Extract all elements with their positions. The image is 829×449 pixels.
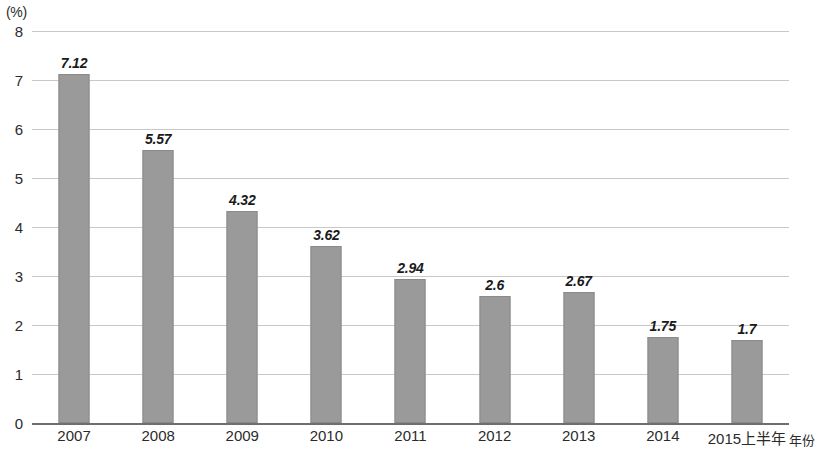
bar-slot: 2.67 — [537, 31, 621, 423]
y-axis-tick-label: 2 — [15, 317, 23, 334]
x-axis-tick-label: 2015上半年 — [708, 427, 786, 448]
y-axis-tick-label: 6 — [15, 121, 23, 138]
bar[interactable] — [59, 74, 90, 423]
bar-slot: 3.62 — [284, 31, 368, 423]
y-axis-tick-label: 1 — [15, 366, 23, 383]
x-axis-tick-label: 2008 — [141, 427, 174, 444]
bar[interactable] — [395, 279, 426, 423]
bars-group: 7.125.574.323.622.942.62.671.751.7 — [32, 31, 789, 423]
bar-chart: (%) 876543210 7.125.574.323.622.942.62.6… — [0, 0, 829, 449]
bar-slot: 5.57 — [116, 31, 200, 423]
bar[interactable] — [227, 211, 258, 423]
x-axis-tick-label: 2014 — [646, 427, 679, 444]
bar[interactable] — [143, 150, 174, 423]
y-axis-tick-label: 8 — [15, 23, 23, 40]
bar[interactable] — [479, 296, 510, 423]
bar[interactable] — [311, 246, 342, 423]
bar-slot: 4.32 — [200, 31, 284, 423]
bar[interactable] — [647, 337, 678, 423]
bar-slot: 2.6 — [453, 31, 537, 423]
bar-value-label: 1.75 — [650, 318, 676, 334]
bar-value-label: 2.6 — [485, 277, 504, 293]
x-axis-tick-label: 2013 — [562, 427, 595, 444]
x-axis-tick-label: 2009 — [226, 427, 259, 444]
y-axis-unit-label: (%) — [6, 4, 27, 20]
x-axis-baseline: 0 — [32, 423, 789, 425]
y-axis-tick-label: 3 — [15, 268, 23, 285]
bar-slot: 1.75 — [621, 31, 705, 423]
x-axis-tick-label: 2007 — [57, 427, 90, 444]
bar-value-label: 5.57 — [145, 131, 171, 147]
x-axis-tick-labels: 200720082009201020112012201320142015上半年 — [32, 427, 789, 449]
plot-area: 876543210 7.125.574.323.622.942.62.671.7… — [32, 31, 789, 423]
x-axis-tick-label: 2011 — [394, 427, 426, 444]
y-axis-tick-label: 5 — [15, 170, 23, 187]
bar[interactable] — [563, 292, 594, 423]
bar-slot: 7.12 — [32, 31, 116, 423]
bar-value-label: 2.67 — [565, 273, 591, 289]
x-axis-title: 年份 — [789, 430, 815, 449]
bar-slot: 2.94 — [368, 31, 452, 423]
x-axis-tick-label: 2012 — [478, 427, 511, 444]
bar-value-label: 1.7 — [737, 321, 756, 337]
bar-value-label: 4.32 — [229, 192, 255, 208]
bar-slot: 1.7 — [705, 31, 789, 423]
bar-value-label: 7.12 — [61, 55, 87, 71]
y-axis-tick-label: 4 — [15, 219, 23, 236]
bar[interactable] — [731, 340, 762, 423]
bar-value-label: 3.62 — [313, 227, 339, 243]
bar-value-label: 2.94 — [397, 260, 423, 276]
x-axis-tick-label: 2010 — [310, 427, 343, 444]
y-axis-tick-label: 7 — [15, 72, 23, 89]
y-axis-tick-label: 0 — [15, 415, 23, 432]
